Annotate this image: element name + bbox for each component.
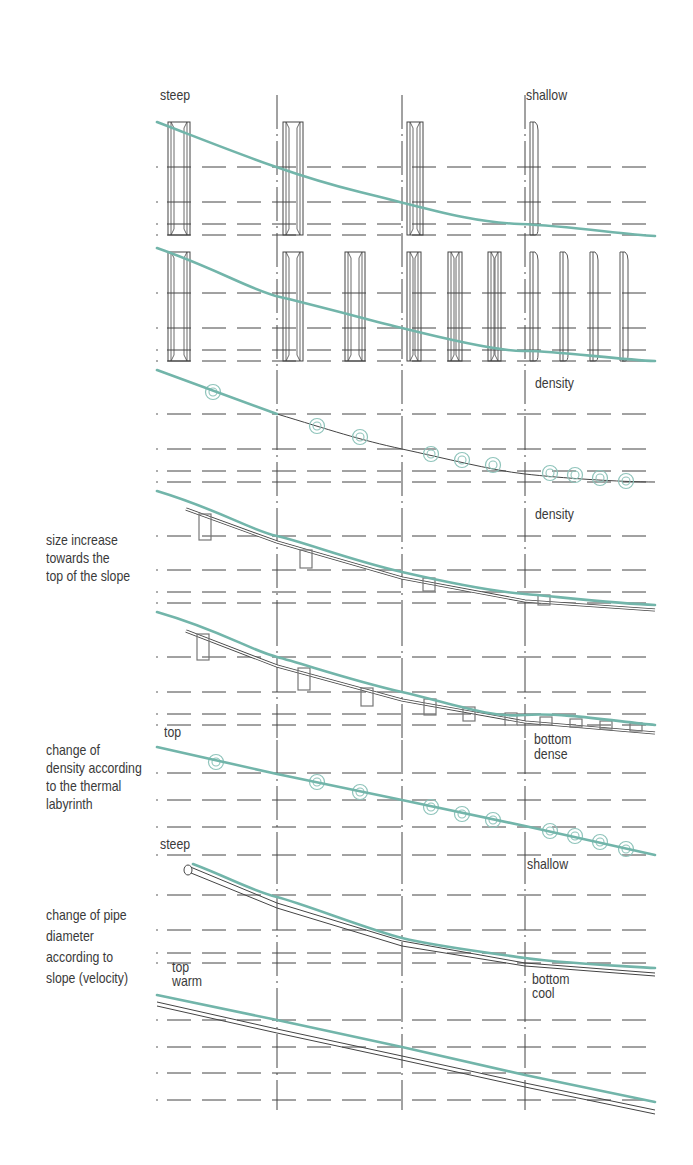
pipe-inner-wall	[191, 873, 655, 976]
row-dot	[156, 349, 158, 351]
pipe-outline	[186, 509, 655, 610]
channel-inner	[171, 122, 187, 235]
label-bottom-dense: bottom dense	[534, 731, 572, 761]
row-dot	[156, 1099, 158, 1101]
row-dot	[156, 327, 158, 329]
channel-outer	[448, 252, 462, 361]
row-dot	[156, 591, 158, 593]
row-dot	[156, 448, 158, 450]
plate-outline	[530, 122, 538, 235]
density-ring-icon	[543, 466, 558, 481]
row-dot	[156, 166, 158, 168]
row-dot	[156, 772, 158, 774]
density-ring-inner-icon	[427, 450, 435, 458]
density-ring-inner-icon	[596, 474, 604, 482]
panel-pipe-diameter	[184, 865, 655, 976]
label-top-1: top	[164, 723, 181, 740]
density-ring-inner-icon	[356, 433, 364, 441]
label-shallow: shallow	[526, 86, 567, 103]
row-dot	[156, 360, 158, 362]
pipe-outer-wall	[188, 866, 655, 973]
teal-slope-curves	[157, 122, 655, 1102]
plate-outline	[590, 252, 598, 361]
row-dot	[156, 952, 158, 954]
channel-inner	[491, 252, 498, 361]
row-dot	[156, 481, 158, 483]
row-dot	[156, 535, 158, 537]
teal-slope-curve	[193, 864, 655, 968]
label-steep-2: steep	[160, 835, 190, 852]
grid-lines	[156, 95, 655, 1110]
label-bottom-cool: bottom cool	[532, 972, 570, 1000]
row-dot	[156, 724, 158, 726]
row-dot	[156, 691, 158, 693]
panel-thermal-labyrinth	[209, 755, 634, 857]
pipe-inner-wall	[157, 1006, 655, 1114]
row-dot	[156, 799, 158, 801]
density-ring-icon	[455, 453, 470, 468]
row-dot	[156, 1019, 158, 1021]
plate-outline	[620, 252, 628, 361]
channel-inner	[410, 122, 420, 235]
panel-pipes-repeated	[168, 252, 628, 361]
label-change-density: change of density according to the therm…	[46, 741, 142, 813]
row-dot	[156, 602, 158, 604]
label-change-pipe: change of pipe diameter according to slo…	[46, 904, 128, 988]
plate-outline	[530, 252, 538, 361]
density-ring-icon	[568, 468, 583, 483]
channel-outer	[488, 252, 501, 361]
black-slope-line	[277, 414, 655, 482]
pipe-core	[186, 509, 655, 610]
row-dot	[156, 413, 158, 415]
row-dot	[156, 569, 158, 571]
row-dot	[156, 292, 158, 294]
row-dot	[156, 713, 158, 715]
panel-size-increase	[186, 509, 655, 610]
teal-slope-curve	[157, 491, 655, 605]
label-top-warm: top warm	[172, 960, 202, 988]
label-size-increase: size increase towards the top of the slo…	[46, 531, 130, 585]
row-dot	[156, 962, 158, 964]
row-dot	[156, 656, 158, 658]
row-dot	[156, 470, 158, 472]
thermal-labyrinth-diagram: steep shallow density density size incre…	[0, 0, 693, 1165]
row-dot	[156, 223, 158, 225]
row-dot	[156, 1046, 158, 1048]
row-dot	[156, 929, 158, 931]
row-dot	[156, 1072, 158, 1074]
panel-gradient-warm-cool	[157, 1002, 655, 1114]
teal-slope-curve	[157, 248, 655, 361]
row-dot	[156, 234, 158, 236]
density-ring-inner-icon	[489, 461, 497, 469]
label-steep: steep	[160, 86, 190, 103]
diagram-elements	[157, 122, 655, 1114]
label-density-1: density	[535, 374, 574, 391]
row-dot	[156, 826, 158, 828]
plate-outline	[560, 252, 568, 361]
channel-inner	[286, 122, 300, 235]
panel-pipes-steep-shallow	[168, 122, 538, 235]
channel-outer	[407, 252, 421, 361]
pipe-end-icon	[184, 865, 192, 875]
channel-inner	[410, 252, 418, 361]
teal-slope-curve	[157, 370, 277, 414]
density-ring-inner-icon	[571, 471, 579, 479]
density-ring-icon	[486, 458, 501, 473]
channel-inner	[348, 252, 362, 361]
panel-density-circles	[206, 385, 656, 489]
density-ring-inner-icon	[546, 469, 554, 477]
label-density-2: density	[535, 505, 574, 522]
channel-inner	[451, 252, 459, 361]
row-dot	[156, 894, 158, 896]
label-shallow-2: shallow	[527, 855, 568, 872]
pipe-outer-wall	[157, 1002, 655, 1110]
teal-slope-curve	[157, 612, 655, 725]
teal-slope-curve	[157, 995, 655, 1102]
row-dot	[156, 201, 158, 203]
density-ring-icon	[593, 471, 608, 486]
channel-inner	[171, 252, 187, 361]
teal-slope-curve	[157, 747, 655, 855]
row-dot	[156, 854, 158, 856]
channel-outer	[407, 122, 423, 235]
channel-inner	[286, 252, 300, 361]
